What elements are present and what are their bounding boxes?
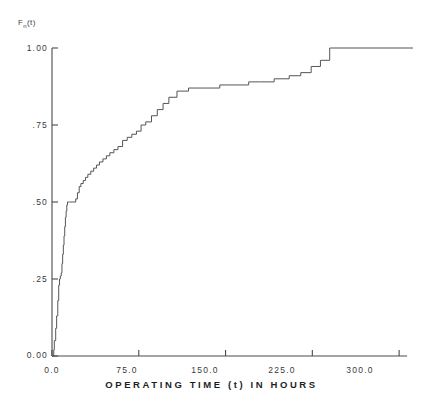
plot-canvas xyxy=(0,0,423,418)
ytick-label-5: 0.00 xyxy=(6,350,48,360)
step-curve-series xyxy=(52,48,413,356)
ytick-label-3: .50 xyxy=(6,197,48,207)
axis-lines xyxy=(52,48,407,356)
y-axis-label: Fn(t) xyxy=(18,18,36,29)
ytick-label-4: .25 xyxy=(6,274,48,284)
y-axis-label-arg: (t) xyxy=(27,18,36,27)
xtick-label-5: 300.0 xyxy=(337,365,383,375)
x-axis-title: OPERATING TIME (t) IN HOURS xyxy=(0,379,423,390)
xtick-label-1: 0.0 xyxy=(29,365,75,375)
figure-container: Fn(t) 1.00 .75 .50 .25 0.00 0.0 75.0 150… xyxy=(0,0,423,418)
xtick-label-3: 150.0 xyxy=(182,365,228,375)
xtick-label-2: 75.0 xyxy=(104,365,150,375)
y-axis-ticks xyxy=(52,48,58,356)
xtick-label-4: 225.0 xyxy=(259,365,305,375)
ytick-label-1: 1.00 xyxy=(6,43,48,53)
x-axis-ticks xyxy=(52,350,399,356)
ytick-label-2: .75 xyxy=(6,120,48,130)
